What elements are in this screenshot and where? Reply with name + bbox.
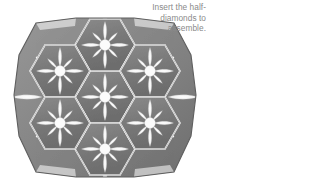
instruction-caption: Insert the half-diamonds to assemble.	[128, 2, 206, 34]
